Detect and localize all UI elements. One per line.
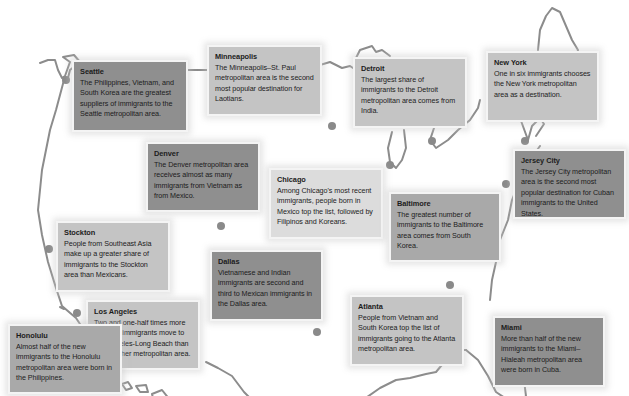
- callout-baltimore: Baltimore The greatest number of immigra…: [389, 192, 501, 262]
- callout-denver: Denver The Denver metropolitan area rece…: [146, 142, 260, 212]
- callout-city: Seattle: [80, 67, 180, 78]
- callout-jersey-city: Jersey City The Jersey City metropolitan…: [513, 149, 626, 219]
- callout-text: Among Chicago's most recent immigrants, …: [277, 186, 375, 228]
- baltimore-marker[interactable]: [446, 281, 454, 289]
- los-angeles-marker[interactable]: [73, 309, 81, 317]
- callout-miami: Miami More than half of the new immigran…: [493, 316, 605, 387]
- callout-seattle: Seattle The Philippines, Vietnam, and So…: [72, 60, 188, 132]
- seattle-marker[interactable]: [62, 76, 70, 84]
- callout-atlanta: Atlanta People from Vietnam and South Ko…: [350, 295, 464, 366]
- callout-city: Denver: [154, 149, 252, 160]
- callout-city: Jersey City: [521, 156, 618, 167]
- callout-detroit: Detroit The largest share of immigrants …: [353, 57, 467, 128]
- detroit-marker[interactable]: [428, 137, 436, 145]
- callout-text: People from Southeast Asia make up a gre…: [64, 239, 162, 281]
- callout-text: Almost half of the new immigrants to the…: [16, 342, 114, 384]
- callout-minneapolis: Minneapolis The Minneapolis–St. Paul met…: [207, 45, 322, 116]
- callout-city: Chicago: [277, 175, 375, 186]
- denver-marker[interactable]: [217, 222, 225, 230]
- callout-text: The greatest number of immigrants to the…: [397, 210, 493, 252]
- jersey-city-marker[interactable]: [502, 180, 510, 188]
- callout-stockton: Stockton People from Southeast Asia make…: [56, 221, 170, 292]
- callout-honolulu: Honolulu Almost half of the new immigran…: [8, 324, 122, 394]
- minneapolis-marker[interactable]: [328, 122, 336, 130]
- callout-city: New York: [494, 58, 591, 69]
- callout-city: Detroit: [361, 64, 459, 75]
- callout-city: Baltimore: [397, 199, 493, 210]
- dallas-marker[interactable]: [313, 328, 321, 336]
- callout-text: People from Vietnam and South Korea top …: [358, 313, 456, 355]
- callout-city: Minneapolis: [215, 52, 314, 63]
- callout-city: Dallas: [218, 257, 315, 268]
- callout-text: The Denver metropolitan area receives al…: [154, 160, 252, 202]
- callout-text: More than half of the new immigrants to …: [501, 334, 597, 376]
- callout-dallas: Dallas Vietnamese and Indian immigrants …: [210, 250, 323, 321]
- callout-city: Stockton: [64, 228, 162, 239]
- callout-text: Vietnamese and Indian immigrants are sec…: [218, 268, 315, 310]
- new-york-marker[interactable]: [521, 137, 529, 145]
- callout-new-york: New York One in six immigrants chooses t…: [486, 51, 599, 122]
- callout-text: The Philippines, Vietnam, and South Kore…: [80, 78, 180, 120]
- callout-text: The largest share of immigrants to the D…: [361, 75, 459, 117]
- callout-text: One in six immigrants chooses the New Yo…: [494, 69, 591, 101]
- callout-city: Honolulu: [16, 331, 114, 342]
- callout-chicago: Chicago Among Chicago's most recent immi…: [269, 168, 383, 239]
- callout-city: Los Angeles: [94, 307, 192, 318]
- callout-city: Miami: [501, 323, 597, 334]
- stockton-marker[interactable]: [45, 245, 53, 253]
- callout-text: The Minneapolis–St. Paul metropolitan ar…: [215, 63, 314, 105]
- callout-text: The Jersey City metropolitan area is the…: [521, 167, 618, 220]
- chicago-marker[interactable]: [386, 161, 394, 169]
- callout-city: Atlanta: [358, 302, 456, 313]
